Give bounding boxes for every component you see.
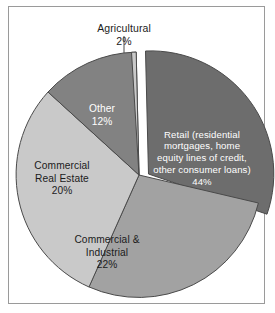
slice-label-commercial-real-estate-percent: 20%: [16, 185, 108, 197]
slice-label-other-percent: 12%: [72, 116, 132, 128]
slice-label-retail: Retail (residential mortgages, home equi…: [143, 117, 261, 199]
slice-label-agricultural-percent: 2%: [62, 35, 186, 48]
slice-label-retail-name: Retail (residential mortgages, home equi…: [153, 129, 251, 175]
slice-label-commercial-industrial-name: Commercial & Industrial: [74, 234, 139, 257]
slice-label-commercial-real-estate: Commercial Real Estate 20%: [16, 148, 108, 210]
slice-label-other-name: Other: [89, 103, 115, 114]
slice-label-retail-percent: 44%: [143, 176, 261, 188]
slice-label-commercial-real-estate-name: Commercial Real Estate: [34, 160, 89, 183]
slice-label-commercial-industrial-percent: 22%: [57, 259, 157, 271]
slice-label-agricultural: Agricultural 2%: [62, 9, 186, 60]
slice-label-commercial-industrial: Commercial & Industrial 22%: [57, 222, 157, 284]
pie-chart-figure: Agricultural 2% Retail (residential mort…: [0, 0, 275, 313]
slice-label-agricultural-name: Agricultural: [97, 22, 151, 34]
slice-label-other: Other 12%: [72, 91, 132, 141]
